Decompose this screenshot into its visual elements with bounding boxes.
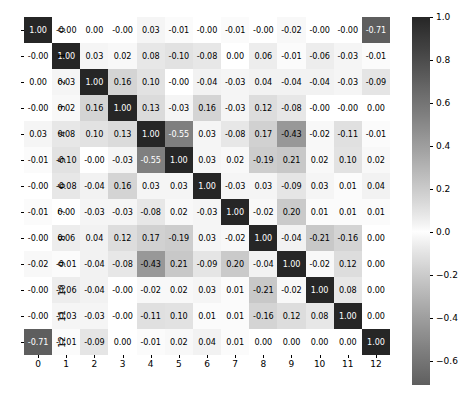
heatmap-cell: -0.55 [137,147,165,173]
heatmap-cell: -0.02 [221,225,249,251]
heatmap-cell: 0.00 [334,329,362,355]
colorbar-tick-mark [430,232,433,233]
x-tick-label: 0 [24,359,52,373]
heatmap-cell: -0.08 [193,43,221,69]
heatmap-cell: 0.00 [306,329,334,355]
heatmap-cell: -0.00 [249,17,277,43]
heatmap-cell: 0.08 [334,277,362,303]
heatmap-cell: -0.16 [334,225,362,251]
heatmap-cell: 0.21 [277,147,305,173]
heatmap-cell: -0.08 [277,95,305,121]
heatmap-cell: -0.21 [306,225,334,251]
y-tick-label: 1 [50,43,74,69]
x-tick-mark [263,355,264,358]
heatmap-cell: -0.71 [24,329,52,355]
x-tick-label: 5 [165,359,193,373]
heatmap-cell: -0.09 [277,173,305,199]
x-tick-label: 11 [334,359,362,373]
heatmap-cell: -0.06 [306,43,334,69]
heatmap-cell: -0.04 [277,225,305,251]
x-tick-label: 2 [80,359,108,373]
heatmap-cell: 0.13 [108,121,136,147]
y-tick-mark [21,186,24,187]
heatmap-cell: -0.10 [165,43,193,69]
heatmap-cell: -0.01 [24,199,52,225]
heatmap-cell: 0.01 [221,277,249,303]
heatmap-cell: 1.00 [277,251,305,277]
heatmap-cell: -0.00 [306,95,334,121]
heatmap-cell: 0.03 [193,277,221,303]
x-tick-mark [320,355,321,358]
y-tick-mark [21,264,24,265]
heatmap-cell: 0.02 [165,329,193,355]
y-tick-mark [21,316,24,317]
heatmap-cell: 0.00 [362,277,390,303]
x-tick-mark [38,355,39,358]
heatmap-cell: -0.00 [24,225,52,251]
y-tick-label: 11 [50,303,74,329]
heatmap-cell: 0.10 [334,147,362,173]
heatmap-cell: -0.04 [249,251,277,277]
heatmap-cell: -0.03 [108,147,136,173]
y-tick-mark [21,108,24,109]
heatmap-cell: 0.01 [193,303,221,329]
heatmap-cell: 0.00 [362,251,390,277]
heatmap-cell: 0.16 [108,173,136,199]
x-tick-label: 10 [306,359,334,373]
y-tick-label: 12 [50,329,74,355]
heatmap-cell: 1.00 [193,173,221,199]
heatmap-cell: -0.01 [24,147,52,173]
heatmap-cell: -0.43 [277,121,305,147]
heatmap-cell: 0.01 [221,303,249,329]
colorbar-tick-label: 0.4 [436,141,450,151]
x-tick-label: 7 [221,359,249,373]
heatmap-cell: 0.16 [193,95,221,121]
heatmap-cell: -0.09 [193,251,221,277]
x-tick-mark [123,355,124,358]
heatmap-cell: 0.00 [277,329,305,355]
heatmap-cell: -0.00 [80,147,108,173]
heatmap-cell: 0.01 [362,199,390,225]
heatmap-cell: 1.00 [80,69,108,95]
colorbar-tick-label: −0.2 [436,270,458,280]
heatmap-cell: 0.02 [362,147,390,173]
heatmap-cell: 1.00 [108,95,136,121]
heatmap-cell: 0.16 [80,95,108,121]
x-tick-mark [348,355,349,358]
heatmap-cell: 0.04 [193,329,221,355]
x-tick-mark [151,355,152,358]
heatmap-cell: 0.01 [306,199,334,225]
y-tick-label: 6 [50,173,74,199]
heatmap-cell: -0.09 [80,329,108,355]
heatmap-cell: -0.04 [193,69,221,95]
heatmap-cell: 0.01 [334,199,362,225]
heatmap-cell: -0.00 [24,303,52,329]
x-tick-label: 4 [137,359,165,373]
heatmap-cell: 0.06 [249,43,277,69]
x-tick-mark [235,355,236,358]
heatmap-cell: -0.08 [108,251,136,277]
heatmap-cell: 0.02 [165,199,193,225]
heatmap-cell: -0.02 [277,277,305,303]
heatmap-cell: 1.00 [221,199,249,225]
y-tick-mark [21,30,24,31]
heatmap-cell: -0.02 [137,277,165,303]
heatmap-cell: -0.00 [24,95,52,121]
heatmap-cell: -0.04 [306,69,334,95]
heatmap-cell: 0.02 [221,147,249,173]
heatmap-cell: -0.03 [334,69,362,95]
y-tick-label: 8 [50,225,74,251]
heatmap-cell: -0.03 [165,95,193,121]
heatmap-cell: -0.00 [306,17,334,43]
y-tick-label: 7 [50,199,74,225]
heatmap-cell: 0.04 [249,69,277,95]
heatmap-cell: 0.17 [249,121,277,147]
heatmap-cell: 0.17 [137,225,165,251]
y-tick-mark [21,160,24,161]
y-tick-label: 3 [50,95,74,121]
heatmap-cell: 0.01 [334,173,362,199]
heatmap-plot-area: 1.00-0.000.00-0.000.03-0.01-0.00-0.01-0.… [24,17,390,355]
heatmap-cell: 0.03 [24,121,52,147]
heatmap-cell: -0.01 [362,43,390,69]
x-tick-label: 6 [193,359,221,373]
